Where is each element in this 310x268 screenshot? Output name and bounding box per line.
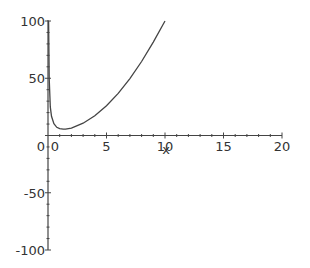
x-tick-label: 5: [102, 139, 110, 154]
y-tick-label: -50: [24, 186, 45, 201]
y-tick-label: 0: [37, 139, 45, 154]
x-tick-label: 20: [274, 139, 291, 154]
chart: 05101520100500-50-100 x: [0, 0, 310, 268]
y-tick-label: -100: [15, 243, 45, 258]
x-axis-label: x: [162, 142, 170, 157]
x-tick-label: 15: [215, 139, 232, 154]
x-tick-label: 0: [51, 139, 59, 154]
data-curve: [49, 21, 165, 129]
y-tick-label: 100: [20, 14, 45, 29]
y-tick-label: 50: [28, 71, 45, 86]
